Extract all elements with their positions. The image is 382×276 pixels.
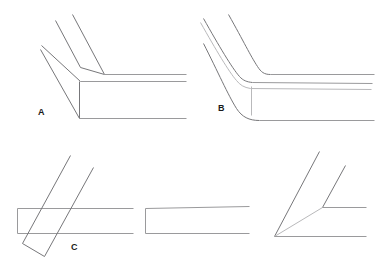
panel-c-diagonal-right-edge — [45, 168, 94, 257]
panel-e-drawing — [275, 152, 367, 237]
panel-b-horizontal-second-edge — [253, 83, 373, 84]
panel-b-diagonal-outer-edge — [229, 15, 271, 75]
panel-a-diagonal-top-edge — [56, 21, 81, 68]
panel-b-horizontal-third-edge — [251, 89, 372, 90]
panel-e-upper-diagonal — [275, 152, 320, 237]
panel-a-diagonal-lower-edge — [41, 50, 80, 119]
panel-b-drawing — [201, 15, 375, 121]
panel-b-diagonal-second-edge — [204, 19, 253, 83]
panel-d-drawing — [146, 207, 250, 234]
line-drawing-canvas — [0, 0, 382, 276]
panel-a-label: A — [38, 107, 45, 117]
panel-a-diagonal-outer-edge — [73, 15, 105, 75]
panel-c-diagonal-left-edge — [23, 156, 71, 244]
panel-c-diagonal-end-face — [23, 244, 45, 257]
panel-c-label: C — [71, 242, 78, 252]
panel-a-diagonal-middle-edge — [42, 46, 81, 82]
panel-d-bar-top-edge — [146, 207, 250, 209]
figure-sheet: A B C — [0, 0, 382, 276]
panel-a-drawing — [41, 15, 187, 119]
panel-e-middle-diagonal — [323, 166, 346, 208]
panel-b-label: B — [218, 103, 225, 113]
